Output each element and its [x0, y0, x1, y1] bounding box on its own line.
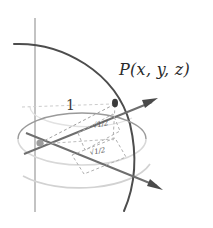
point-p-dot [112, 99, 118, 107]
projection-box-lower [72, 138, 126, 174]
diagram-svg [0, 0, 213, 228]
vertical-drop-dashed [113, 105, 115, 141]
figure-canvas: P(x, y, z) 1 √1/2 √1/2 [0, 0, 213, 228]
origin-dot [36, 139, 43, 146]
radius-dashed-line [40, 104, 115, 143]
sphere-outline-arc [14, 44, 134, 211]
x-axis-arrowhead [147, 179, 163, 190]
y-axis-arrowhead [142, 98, 158, 108]
